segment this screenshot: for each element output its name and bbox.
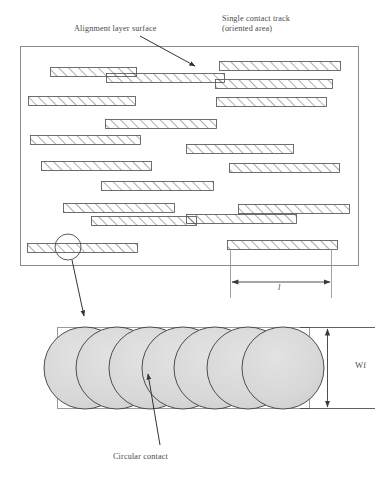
- contact-track: [92, 217, 197, 226]
- contact-track: [42, 162, 152, 171]
- contact-track: [187, 145, 294, 154]
- contact-track: [64, 204, 175, 213]
- single-contact-track-line2: (oriented area): [222, 24, 272, 33]
- contact-track: [217, 98, 327, 107]
- single-contact-track-label: Single contact track(oriented area): [222, 14, 290, 33]
- dimension-length-label: l: [278, 283, 281, 293]
- contact-track: [230, 164, 340, 173]
- circular-contact: [242, 327, 324, 409]
- contact-track: [29, 97, 136, 106]
- alignment-layer-leader-arrow: [140, 36, 195, 66]
- circular-contact-group: [44, 327, 324, 409]
- contact-track: [220, 62, 341, 71]
- contact-track: [107, 74, 225, 83]
- contact-track: [216, 80, 333, 89]
- contact-track: [28, 244, 138, 253]
- contact-track: [187, 215, 297, 224]
- single-contact-track-line1: Single contact track: [222, 14, 290, 23]
- dimension-width-label: Wf: [355, 361, 366, 371]
- technical-figure: Alignment layer surface Single contact t…: [0, 0, 389, 482]
- contact-track: [102, 182, 214, 191]
- figure-canvas: [0, 0, 389, 482]
- contact-track: [239, 205, 350, 214]
- alignment-layer-surface-label: Alignment layer surface: [74, 24, 157, 34]
- circular-contact-label: Circular contact: [113, 452, 168, 462]
- contact-track: [106, 120, 217, 129]
- contact-track-group: [28, 62, 350, 253]
- contact-track: [228, 241, 338, 250]
- contact-track: [31, 136, 141, 145]
- detail-leader-arrow: [72, 260, 84, 316]
